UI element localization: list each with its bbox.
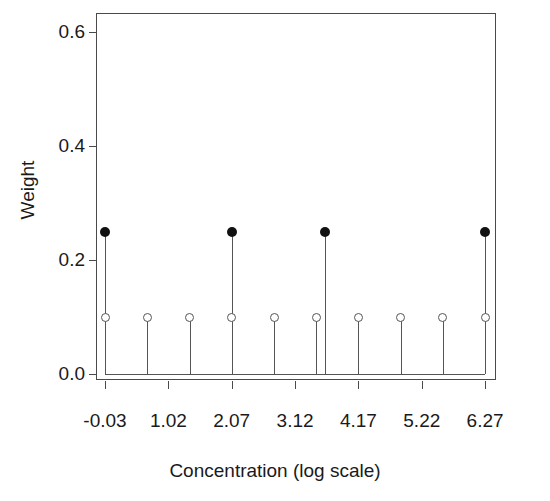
data-stem bbox=[485, 317, 486, 374]
data-stem bbox=[358, 317, 359, 374]
data-stem bbox=[274, 317, 275, 374]
data-point-open-circle bbox=[185, 313, 194, 322]
data-point-filled-circle bbox=[100, 227, 110, 237]
chart-title bbox=[0, 0, 550, 1]
y-tick-mark bbox=[89, 260, 96, 261]
y-tick-label: 0.6 bbox=[25, 22, 85, 41]
y-tick-mark bbox=[89, 146, 96, 147]
data-point-open-circle bbox=[270, 313, 279, 322]
data-point-open-circle bbox=[354, 313, 363, 322]
data-point-open-circle bbox=[396, 313, 405, 322]
x-axis-title: Concentration (log scale) bbox=[0, 460, 550, 482]
data-point-filled-circle bbox=[480, 227, 490, 237]
x-tick-mark bbox=[485, 381, 486, 389]
data-stem bbox=[232, 317, 233, 374]
zero-baseline bbox=[105, 374, 485, 375]
data-stem bbox=[190, 317, 191, 374]
x-tick-mark bbox=[358, 381, 359, 389]
x-tick-mark bbox=[168, 381, 169, 389]
x-tick-label: 6.27 bbox=[440, 410, 530, 431]
data-point-open-circle bbox=[438, 313, 447, 322]
data-stem bbox=[316, 317, 317, 374]
data-stem bbox=[443, 317, 444, 374]
data-stem bbox=[105, 317, 106, 374]
data-point-open-circle bbox=[143, 313, 152, 322]
x-tick-mark bbox=[105, 381, 106, 389]
data-point-open-circle bbox=[312, 313, 321, 322]
data-point-filled-circle bbox=[227, 227, 237, 237]
data-stem bbox=[147, 317, 148, 374]
data-point-open-circle bbox=[101, 313, 110, 322]
x-tick-mark bbox=[422, 381, 423, 389]
data-point-filled-circle bbox=[320, 227, 330, 237]
chart-figure: 0.00.20.40.6 -0.031.022.073.124.175.226.… bbox=[0, 0, 550, 501]
x-tick-mark bbox=[295, 381, 296, 389]
data-point-open-circle bbox=[481, 313, 490, 322]
data-point-open-circle bbox=[227, 313, 236, 322]
y-tick-mark bbox=[89, 32, 96, 33]
y-tick-mark bbox=[89, 374, 96, 375]
data-stem bbox=[325, 232, 326, 375]
plot-panel bbox=[96, 13, 496, 380]
y-tick-label: 0.0 bbox=[25, 364, 85, 383]
x-tick-mark bbox=[232, 381, 233, 389]
data-stem bbox=[401, 317, 402, 374]
y-axis-title: Weight bbox=[18, 90, 38, 290]
